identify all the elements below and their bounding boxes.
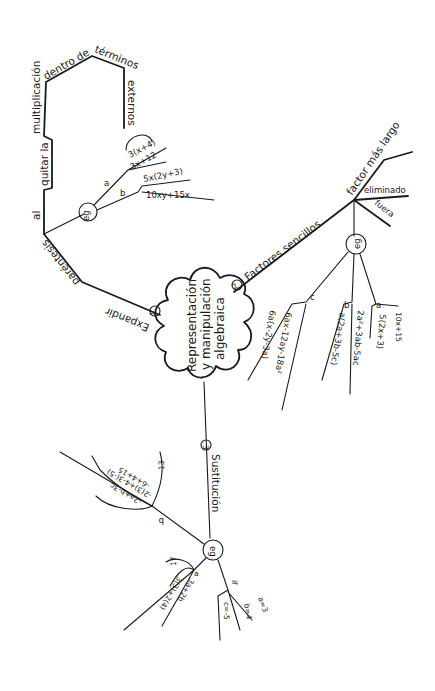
branch-2-example-a-result: 5(2x+3) bbox=[375, 314, 388, 350]
branch-3-line bbox=[204, 382, 210, 538]
branch-1-sub-parentesis: paréntesis bbox=[38, 238, 81, 289]
branch-3-eg-label: eg bbox=[208, 546, 218, 557]
branch-1-example-a-letter: a bbox=[104, 178, 109, 188]
branch-3-example-b-curve2 bbox=[152, 452, 162, 506]
branch-1-example-b-result: 10xy+15x bbox=[146, 190, 190, 200]
branch-sustitucion: 3 Sustitución eg b -2a+b-3c -2(3)+4-3(-5… bbox=[60, 382, 270, 640]
branch-2-example-b-letter: b bbox=[344, 300, 349, 310]
branch-1-sub-quitar: quitar la bbox=[38, 142, 50, 186]
branch-1-label: Expandir bbox=[103, 305, 151, 334]
branch-1-sub-al: al bbox=[30, 211, 42, 220]
branch-2-example-a-letter: a bbox=[376, 300, 381, 310]
branch-3-example-b-result: 13 bbox=[157, 460, 166, 470]
branch-1-eg-label: eg bbox=[81, 210, 91, 221]
branch-3-given-label: if bbox=[230, 580, 239, 585]
central-topic-line3: algebraica bbox=[213, 297, 227, 360]
branch-1-sub-terminos: términos bbox=[93, 43, 141, 72]
branch-3-label: Sustitución bbox=[210, 454, 222, 512]
mind-map: Representación y manipulación algebraica… bbox=[0, 0, 435, 691]
branch-2-example-b-expression: 2a²+3ab-5ac bbox=[351, 310, 366, 367]
branch-3-number: 3 bbox=[201, 445, 210, 450]
branch-1-path bbox=[44, 56, 124, 234]
branch-1-sub-dentro: dentro de bbox=[41, 46, 91, 82]
branch-1-eg-line bbox=[44, 214, 84, 234]
branch-2-example-c-line bbox=[248, 252, 348, 410]
central-topic-line2: y manipulación bbox=[199, 278, 213, 370]
branch-2-example-c-result: 6a(x-2y-3a) bbox=[259, 310, 277, 360]
branch-factores: 2 Factores sencillos factor más largo el… bbox=[230, 119, 412, 410]
branch-2-sub-eliminado: eliminado bbox=[364, 185, 406, 195]
branch-2-example-c-letter: c bbox=[310, 292, 315, 302]
central-topic: Representación y manipulación algebraica bbox=[155, 268, 254, 378]
branch-2-example-b-result: a(2a+3b-5c) bbox=[329, 312, 348, 366]
branch-3-given-line bbox=[218, 560, 252, 640]
branch-2-eg-label: eg bbox=[352, 238, 362, 249]
branch-3-given-b: b=4 bbox=[242, 603, 254, 620]
branch-1-sub-externos: externos bbox=[126, 80, 138, 126]
branch-2-example-a-expression: 10x+15 bbox=[394, 312, 403, 342]
branch-3-example-b-letter: b bbox=[159, 516, 164, 526]
branch-1-number: 1 bbox=[148, 311, 157, 316]
central-topic-line1: Representación bbox=[185, 279, 199, 372]
branch-3-example-a-result: 17 bbox=[169, 556, 178, 566]
branch-3-given-a: a=3 bbox=[256, 596, 270, 614]
branch-3-given-c: c=-5 bbox=[222, 602, 231, 620]
branch-2-label: Factores sencillos bbox=[242, 218, 323, 283]
branch-1-example-b-letter: b bbox=[120, 188, 125, 198]
branch-3-example-a-letter: a bbox=[194, 569, 199, 578]
